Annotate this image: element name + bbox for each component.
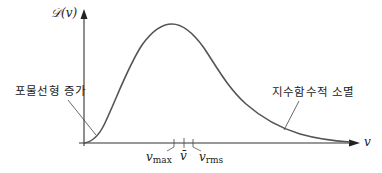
rise-annotation: 포물선형 증가 [15,86,86,98]
y-axis-arrow-icon [81,9,88,19]
v-max-base: v [146,150,153,164]
v-rms-base: v [199,150,206,164]
v-rms-sub: rms [206,155,223,165]
distribution-curve [84,24,350,143]
v-mean-label: v̄ [180,150,187,162]
v-max-sub: max [153,155,172,165]
x-axis-arrow-icon [349,140,360,147]
y-axis-label: 𝒟(v) [51,7,77,19]
x-axis-label: v [364,136,371,148]
decay-annotation: 지수함수적 소멸 [272,87,354,99]
rise-leader-line [68,100,96,135]
decay-leader-line [284,101,299,130]
v-max-label: vmax [146,151,172,165]
v-rms-label: vrms [199,151,223,165]
